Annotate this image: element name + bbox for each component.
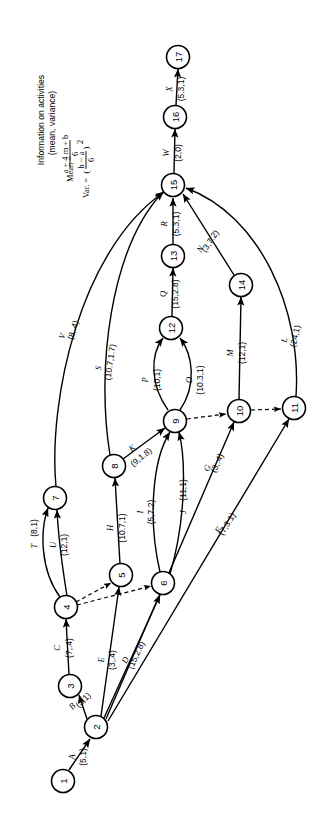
edge-W-value: (2,0) — [173, 144, 183, 162]
node-15[interactable]: 15 — [162, 174, 185, 197]
node-7[interactable]: 7 — [44, 487, 67, 510]
edge-Q-name: Q — [158, 291, 168, 297]
node-16-label: 16 — [170, 112, 181, 123]
edge-O — [180, 338, 191, 410]
edge-S — [105, 192, 163, 455]
node-1[interactable]: 1 — [52, 770, 75, 793]
node-11-label: 11 — [289, 403, 300, 413]
edge-K-name: K — [126, 441, 138, 454]
node-12-label: 12 — [166, 323, 177, 334]
node-17-label: 17 — [173, 52, 184, 63]
node-9-label: 9 — [170, 418, 181, 423]
node-8-label: 8 — [109, 463, 120, 468]
node-14-label: 14 — [236, 280, 247, 291]
node-9[interactable]: 9 — [164, 410, 187, 433]
legend-mean-numerator: a + 4 m + b — [61, 135, 70, 174]
node-4[interactable]: 4 — [55, 596, 78, 619]
node-3-label: 3 — [65, 683, 76, 688]
edge-U-value: (12,1) — [59, 534, 69, 556]
legend-var-denominator: 6 — [87, 158, 96, 162]
node-2[interactable]: 2 — [85, 716, 108, 739]
edge-group-dashed — [76, 409, 281, 605]
edge-dummy-9-10 — [187, 414, 226, 419]
node-10-label: 10 — [234, 406, 245, 417]
edge-C-value: (7,.4) — [64, 638, 74, 658]
edge-C-name: C — [52, 645, 62, 651]
edge-V-value: (8,.4) — [65, 319, 81, 341]
edge-M-value: (12,1) — [237, 342, 247, 364]
node-6-label: 6 — [158, 580, 169, 585]
node-5[interactable]: 5 — [110, 564, 133, 587]
legend-var-exponent: 2 — [76, 140, 85, 144]
legend-var-label: Var. = — [82, 178, 91, 198]
edge-G-value: (3,.4) — [208, 452, 225, 474]
edge-S-value: (10.7,1.7) — [103, 343, 118, 381]
edge-U-name: U — [48, 541, 58, 548]
edge-A-name: A — [67, 754, 77, 761]
edge-I-name: I — [135, 509, 145, 514]
edge-A-value: (5,1) — [78, 748, 88, 766]
edge-F-value: (7,3.1) — [216, 511, 238, 537]
node-15-label: 15 — [168, 180, 179, 191]
legend-line1: Information on activities — [36, 75, 46, 165]
node-8[interactable]: 8 — [103, 455, 126, 478]
node-12[interactable]: 12 — [160, 317, 183, 340]
edge-X-value: (5.3,1) — [176, 77, 186, 102]
node-3[interactable]: 3 — [59, 675, 82, 698]
edge-Q-value: (15,2.8) — [170, 279, 180, 308]
edge-dummy-4-6 — [77, 586, 151, 605]
legend-var-numerator: b − a — [77, 151, 86, 168]
node-5-label: 5 — [116, 572, 127, 577]
node-13[interactable]: 13 — [162, 245, 185, 268]
edge-J — [170, 432, 183, 574]
edge-dummy-10-11 — [251, 409, 281, 410]
node-6[interactable]: 6 — [152, 572, 175, 595]
edge-T-name: T — [29, 542, 39, 548]
edge-I-value: (5,7.2) — [146, 500, 156, 525]
edge-dummy-4-5 — [76, 583, 111, 602]
node-16[interactable]: 16 — [164, 106, 187, 129]
figure-canvas: 1 2 3 4 5 6 7 — [0, 0, 317, 814]
node-10[interactable]: 10 — [228, 400, 251, 423]
node-11[interactable]: 11 — [283, 397, 306, 420]
activity-network-diagram: 1 2 3 4 5 6 7 — [0, 0, 317, 814]
legend-paren-close: ) — [82, 146, 91, 149]
edge-R-name: R — [159, 221, 169, 228]
legend-line2: (mean, variance) — [47, 91, 57, 156]
edge-E-name: E — [96, 657, 106, 664]
edge-W-name: W — [161, 149, 171, 157]
edge-H-value: (10.7,1) — [117, 513, 127, 542]
edge-L-value: (24,1) — [288, 324, 302, 348]
edge-P-name: P — [140, 377, 150, 383]
edge-H-name: H — [105, 524, 115, 532]
edge-O-name: O — [184, 377, 194, 383]
legend-paren-open: ( — [82, 170, 91, 173]
edge-R-value: (5.3,1) — [171, 212, 181, 237]
edge-D-value: (15,2.8) — [125, 639, 147, 670]
edge-M-name: M — [225, 349, 235, 358]
node-14[interactable]: 14 — [230, 274, 253, 297]
edge-E-value: (3,.4) — [107, 650, 117, 670]
edge-P-value: (10,1) — [152, 369, 162, 391]
edge-J-name: J — [178, 509, 188, 514]
node-2-label: 2 — [91, 724, 102, 729]
edge-T-value: (8,1) — [29, 519, 39, 537]
legend: Information on activities (mean, varianc… — [36, 75, 96, 198]
node-4-label: 4 — [61, 604, 72, 609]
edge-O-value: (10.3,1) — [195, 365, 205, 394]
edge-X-name: X — [164, 86, 174, 93]
node-17[interactable]: 17 — [167, 46, 190, 69]
edge-J-value: (11,1) — [178, 479, 188, 501]
node-7-label: 7 — [50, 495, 61, 500]
node-1-label: 1 — [58, 778, 69, 783]
node-13-label: 13 — [168, 251, 179, 262]
legend-var-formula: Var. = ( b − a 6 ) 2 — [76, 140, 97, 198]
edge-S-name: S — [93, 364, 104, 370]
